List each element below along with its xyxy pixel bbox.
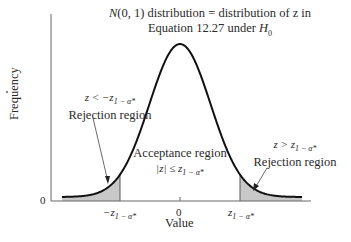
acceptance-label: Acceptance region |z| ≤ z1 − α*: [130, 147, 230, 177]
x-tick-right-sub: 1 − α*: [232, 212, 254, 221]
acceptance-condition: |z| ≤ z: [156, 162, 182, 174]
x-axis-label: Value: [165, 217, 193, 230]
title-line2: Equation 12.27 under: [148, 21, 259, 35]
left-condition: z < −z: [85, 91, 114, 103]
left-region-text: Rejection region: [60, 109, 160, 122]
right-rejection-label: z > z1 − α* Rejection region: [245, 139, 345, 169]
x-tick-left: −z1 − α*: [103, 207, 136, 221]
title-n: N: [109, 6, 117, 20]
right-condition: z > z: [273, 138, 294, 150]
y-zero-label: 0: [40, 195, 46, 206]
x-tick-right: z1 − α*: [228, 207, 254, 221]
title-line1: (0, 1) distribution = distribution of z …: [117, 6, 311, 20]
x-tick-left-main: −z: [103, 206, 115, 218]
title-h-sub: 0: [268, 29, 272, 38]
right-region-text: Rejection region: [245, 156, 345, 169]
left-rejection-label: z < −z1 − α* Rejection region: [60, 92, 160, 122]
left-condition-sub: 1 − α*: [114, 97, 136, 106]
acceptance-condition-sub: 1 − α*: [182, 168, 204, 177]
right-condition-sub: 1 − α*: [295, 144, 317, 153]
acceptance-text: Acceptance region: [130, 147, 230, 160]
chart-title: N(0, 1) distribution = distribution of z…: [95, 6, 325, 41]
title-h: H: [259, 21, 268, 35]
left-arrow: [93, 118, 108, 182]
left-arrowhead-icon: [105, 176, 110, 184]
y-axis-label: Frequency: [8, 67, 21, 120]
x-tick-left-sub: 1 − α*: [115, 212, 137, 221]
